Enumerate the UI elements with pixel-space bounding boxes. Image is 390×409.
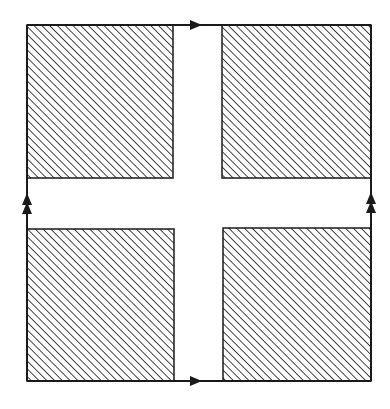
shaded-region-bottom-left bbox=[27, 229, 174, 381]
shaded-region-top-left bbox=[27, 25, 173, 178]
torus-diagram bbox=[0, 0, 390, 409]
arrow-right-icon bbox=[190, 20, 202, 30]
arrow-right-icon bbox=[190, 376, 202, 386]
shaded-region-top-right bbox=[222, 25, 371, 178]
shaded-region-bottom-right bbox=[223, 228, 371, 381]
shaded-regions bbox=[27, 25, 371, 381]
